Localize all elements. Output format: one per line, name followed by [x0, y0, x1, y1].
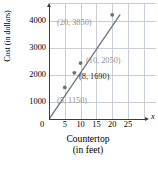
annotation-label-8-1690: (8, 1690)	[79, 73, 109, 81]
y-axis-tick-labels: 4000 3000 2000 1000	[18, 0, 46, 120]
plot-area: x (20, 3850) (10, 2050) (8, 1690) (5, 11…	[49, 3, 156, 120]
x-axis-title-line2: (in feet)	[36, 145, 140, 156]
x-tick-label-10: 10	[76, 121, 84, 129]
annotation-label-10-2050: (10, 2050)	[86, 57, 121, 65]
y-axis-line	[49, 6, 50, 120]
x-axis-title: Countertop (in feet)	[36, 134, 140, 155]
x-tick-label-15: 15	[92, 121, 100, 129]
annotation-label-5-1150: (5, 1150)	[57, 97, 87, 105]
data-point-20-3850	[110, 13, 114, 17]
x-axis-tick-labels: 0 5 10 15 20 25	[49, 121, 156, 133]
y-tick-label-3000: 3000	[29, 44, 46, 52]
x-tick-label-0: 0	[40, 121, 44, 129]
data-point-10-2050	[79, 61, 83, 65]
x-tick-label-25: 25	[124, 121, 132, 129]
y-tick-label-1000: 1000	[29, 98, 46, 106]
cost-vs-countertop-line-chart: Cost (in dollars) 4000 3000 2000 1000	[0, 0, 158, 170]
x-tick-label-20: 20	[108, 121, 116, 129]
y-axis-title: Cost (in dollars)	[4, 0, 12, 74]
y-tick-label-4000: 4000	[29, 17, 46, 25]
x-tick-label-5: 5	[63, 121, 67, 129]
data-point-8-1690	[72, 71, 76, 75]
data-point-5-1150	[63, 86, 67, 90]
y-tick-label-2000: 2000	[29, 71, 46, 79]
y-axis-arrow-icon	[47, 3, 51, 7]
annotation-label-20-3850: (20, 3850)	[57, 19, 92, 27]
